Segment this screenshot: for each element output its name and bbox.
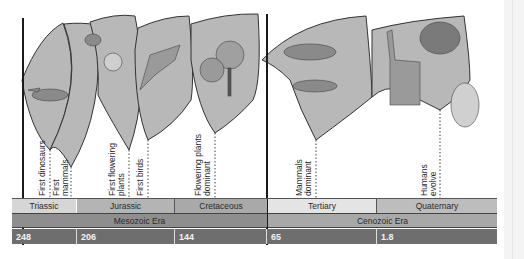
period-label: Tertiary — [308, 201, 336, 211]
scrollbar-track[interactable] — [512, 0, 513, 259]
date-label: 144 — [179, 232, 194, 242]
fan-mammals-dominant — [262, 16, 372, 140]
era-label: Cenozoic Era — [357, 216, 408, 226]
period-label: Cretaceous — [199, 201, 242, 211]
date-label: 248 — [16, 232, 31, 242]
flowering-plant-illustration — [104, 53, 122, 71]
event-mammals-dominant: Mammals dominant — [295, 159, 313, 196]
period-label: Jurassic — [110, 201, 141, 211]
era-mesozoic: Mesozoic Era — [12, 213, 267, 228]
event-first-dinosaurs: First dinosaurs — [38, 140, 47, 196]
early-mammal-illustration — [85, 34, 101, 46]
period-label: Quaternary — [416, 201, 459, 211]
date-1-8: 1.8 — [377, 229, 497, 244]
event-flowering-plants-dominant: Flowering plants dominant — [194, 134, 212, 196]
human-illustration — [451, 83, 479, 127]
scrollbar[interactable] — [504, 0, 524, 259]
date-248: 248 — [12, 229, 77, 244]
event-first-flowering-plants: First flowering plants — [108, 143, 126, 196]
event-first-mammals: First mammals — [52, 159, 70, 196]
date-144: 144 — [175, 229, 267, 244]
tertiary-mammals-illustration — [284, 44, 336, 60]
geologic-time-diagram: First dinosaurs First mammals First flow… — [0, 0, 524, 259]
date-label: 1.8 — [381, 232, 394, 242]
date-206: 206 — [77, 229, 175, 244]
period-triassic: Triassic — [12, 199, 77, 213]
era-cenozoic: Cenozoic Era — [268, 213, 497, 228]
event-humans-evolve: Humans evolve — [420, 164, 438, 196]
period-quaternary: Quaternary — [377, 199, 497, 213]
era-label: Mesozoic Era — [114, 216, 166, 226]
event-first-birds: First birds — [136, 159, 145, 196]
period-label: Triassic — [30, 201, 59, 211]
period-cretaceous: Cretaceous — [175, 199, 267, 213]
date-label: 206 — [81, 232, 96, 242]
date-label: 65 — [271, 232, 281, 242]
mammoth-illustration — [420, 22, 460, 54]
date-65: 65 — [267, 229, 377, 244]
period-tertiary: Tertiary — [268, 199, 377, 213]
period-jurassic: Jurassic — [77, 199, 175, 213]
